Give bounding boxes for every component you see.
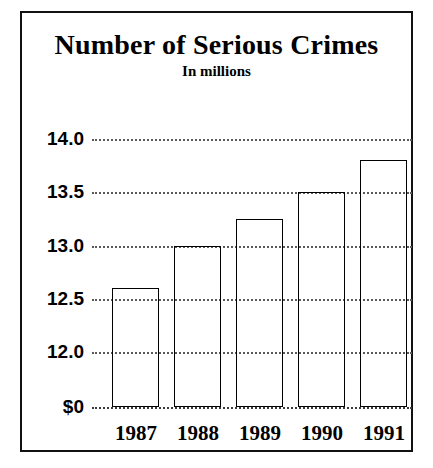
x-axis-tick-label: 1990 xyxy=(287,421,357,446)
y-axis-tick-label: 12.0 xyxy=(47,342,84,361)
chart-frame: Number of Serious Crimes In millions 14.… xyxy=(20,11,413,452)
x-axis-tick-label: 1991 xyxy=(349,421,419,446)
bar-1988 xyxy=(174,246,221,408)
y-axis-tick-label: 14.0 xyxy=(47,129,84,148)
gridline xyxy=(92,139,412,141)
y-axis-tick-label: 13.0 xyxy=(47,236,84,255)
axis-baseline xyxy=(92,407,412,409)
plot-area: 14.013.513.012.512.0$0198719881989199019… xyxy=(22,13,411,450)
x-axis-tick-label: 1989 xyxy=(225,421,295,446)
y-axis-tick-label: 12.5 xyxy=(47,289,84,308)
bar-1987 xyxy=(112,288,159,407)
y-axis-tick-label: 13.5 xyxy=(47,182,84,201)
x-axis-tick-label: 1987 xyxy=(101,421,171,446)
y-axis-tick-label: $0 xyxy=(63,397,84,416)
bar-1991 xyxy=(360,160,407,407)
x-axis-tick-label: 1988 xyxy=(163,421,233,446)
bar-1990 xyxy=(298,192,345,407)
bar-1989 xyxy=(236,219,283,407)
